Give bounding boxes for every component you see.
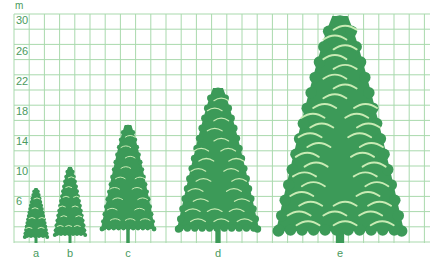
tree-label-a: a <box>33 247 39 259</box>
y-tick-label: 26 <box>16 45 28 57</box>
tree-d <box>175 88 261 243</box>
tree-e <box>273 15 408 243</box>
tree-label-d: d <box>215 247 221 259</box>
y-tick-label: 6 <box>16 195 22 207</box>
tree-height-diagram <box>0 0 430 265</box>
tree-label-b: b <box>67 247 73 259</box>
unit-label: m <box>15 0 23 11</box>
y-tick-label: 14 <box>16 135 28 147</box>
tree-c <box>100 125 157 243</box>
y-tick-label: 22 <box>16 75 28 87</box>
tree-label-c: c <box>125 247 131 259</box>
tree-label-e: e <box>337 247 343 259</box>
tree-b <box>53 167 87 243</box>
y-tick-label: 10 <box>16 165 28 177</box>
trees <box>23 15 408 243</box>
y-tick-label: 30 <box>16 14 28 26</box>
y-tick-label: 18 <box>16 105 28 117</box>
